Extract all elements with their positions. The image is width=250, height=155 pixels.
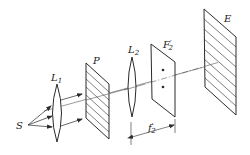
label-s: S — [16, 120, 23, 131]
focal-dot-2 — [162, 86, 165, 89]
optical-diagram: S L1 P L2 F′2 E f′2 — [0, 0, 250, 155]
focal-plane-f2 — [151, 44, 175, 117]
label-focal-length: f′2 — [147, 122, 156, 135]
source-rays — [28, 106, 52, 127]
lens-l1 — [53, 84, 62, 142]
label-e: E — [223, 13, 232, 24]
focal-dot-1 — [162, 69, 165, 72]
label-l1: L1 — [50, 72, 62, 85]
collimated-rays — [61, 94, 82, 126]
screen-e — [204, 9, 236, 115]
label-f2: F′2 — [162, 39, 174, 52]
label-p: P — [92, 55, 100, 66]
polarizer-p — [86, 63, 109, 139]
label-l2: L2 — [127, 44, 140, 57]
